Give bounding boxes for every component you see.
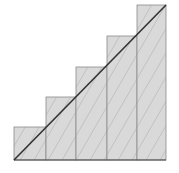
hatch-fill [137,5,166,160]
hatch-fill [107,36,137,160]
hatch-fill [46,97,76,160]
riemann-staircase-diagram [0,0,179,173]
